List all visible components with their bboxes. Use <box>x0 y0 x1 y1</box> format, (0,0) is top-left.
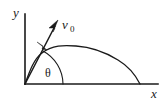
velocity-vector-arrowhead <box>49 20 58 32</box>
x-axis-label: x <box>150 86 157 101</box>
velocity-label-symbol: v <box>62 17 68 32</box>
y-axis-label: y <box>11 5 19 20</box>
projectile-diagram-svg: y x v 0 θ <box>0 0 168 107</box>
angle-label: θ <box>45 66 51 80</box>
velocity-label-subscript: 0 <box>70 24 75 34</box>
projectile-diagram-figure: y x v 0 θ <box>0 0 168 107</box>
